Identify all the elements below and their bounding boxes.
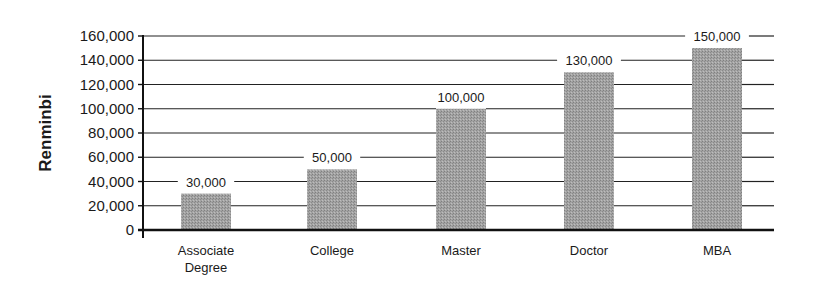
category-label: College (310, 243, 354, 258)
category-label: Degree (185, 260, 228, 275)
y-tick-label: 20,000 (88, 197, 134, 214)
y-tick-label: 160,000 (80, 27, 134, 44)
bars (181, 48, 742, 230)
bar (307, 169, 357, 230)
y-tick-label: 100,000 (80, 100, 134, 117)
value-label: 100,000 (438, 90, 485, 105)
y-tick-label: 0 (126, 221, 134, 238)
bar (564, 72, 614, 230)
y-tick-label: 120,000 (80, 76, 134, 93)
y-tick-label: 40,000 (88, 173, 134, 190)
bar (436, 109, 486, 230)
value-label: 150,000 (694, 29, 741, 44)
bar (181, 194, 231, 230)
category-label: Doctor (570, 243, 609, 258)
y-axis-ticks: 020,00040,00060,00080,000100,000120,0001… (80, 27, 143, 238)
category-label: Master (441, 243, 481, 258)
bar (692, 48, 742, 230)
x-axis-labels: AssociateDegreeCollegeMasterDoctorMBA (178, 243, 732, 275)
value-label: 130,000 (566, 53, 613, 68)
value-label: 50,000 (312, 150, 352, 165)
value-label: 30,000 (186, 175, 226, 190)
y-tick-label: 140,000 (80, 51, 134, 68)
bar-chart: 020,00040,00060,00080,000100,000120,0001… (0, 0, 813, 297)
y-tick-label: 60,000 (88, 148, 134, 165)
y-axis-title: Renminbi (36, 94, 55, 171)
category-label: Associate (178, 243, 234, 258)
category-label: MBA (703, 243, 732, 258)
y-tick-label: 80,000 (88, 124, 134, 141)
